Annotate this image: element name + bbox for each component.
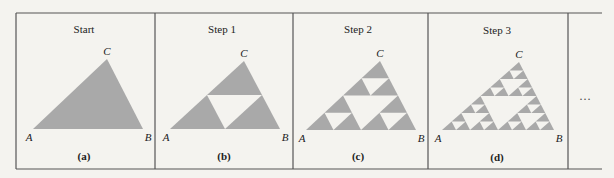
filled-triangle (527, 96, 541, 105)
sierpinski-triangle (442, 62, 554, 130)
filled-triangle (456, 122, 470, 131)
filled-triangle (325, 96, 353, 113)
filled-triangle (371, 78, 399, 95)
filled-triangle (471, 96, 485, 105)
filled-triangle (508, 113, 522, 122)
vertex-label-c: C (240, 47, 248, 59)
panel-b: Step 1ABC(b) (162, 23, 289, 163)
filled-triangle (461, 105, 475, 114)
filled-triangle (480, 113, 494, 122)
filled-triangle (306, 113, 334, 130)
vertex-label-c: C (103, 45, 111, 57)
filled-triangle (33, 59, 143, 129)
vertex-label-b: B (145, 131, 152, 143)
filled-triangle (500, 71, 514, 80)
filled-triangle (523, 88, 537, 97)
filled-triangle (531, 105, 545, 114)
vertex-label-b: B (282, 131, 289, 143)
filled-triangle (484, 122, 498, 131)
panel-caption: (a) (78, 150, 91, 163)
continuation-ellipsis: … (579, 89, 591, 103)
sierpinski-triangle (33, 59, 143, 129)
filled-triangle (362, 61, 390, 78)
vertex-label-a: A (162, 131, 170, 143)
panel-title: Step 2 (344, 23, 372, 35)
figure-canvas: StartABC(a)Step 1ABC(b)Step 2ABC(c)Step … (0, 0, 614, 178)
filled-triangle (343, 78, 371, 95)
filled-triangle (517, 105, 531, 114)
filled-triangle (509, 88, 523, 97)
panel-caption: (c) (352, 150, 365, 163)
panel-caption: (d) (490, 151, 504, 164)
filled-triangle (475, 105, 489, 114)
vertex-label-c: C (376, 47, 384, 59)
filled-triangle (512, 122, 526, 131)
filled-triangle (334, 113, 362, 130)
sierpinski-figure: StartABC(a)Step 1ABC(b)Step 2ABC(c)Step … (0, 0, 614, 178)
panel-title: Start (74, 23, 95, 35)
filled-triangle (481, 88, 495, 97)
filled-triangle (536, 113, 550, 122)
filled-triangle (514, 71, 528, 80)
filled-triangle (495, 88, 509, 97)
filled-triangle (518, 79, 532, 88)
vertex-label-c: C (515, 48, 523, 60)
filled-triangle (225, 95, 280, 129)
filled-triangle (498, 122, 512, 131)
filled-triangle (380, 96, 408, 113)
filled-triangle (470, 122, 484, 131)
panel-c: Step 2ABC(c) (298, 23, 425, 163)
vertex-label-b: B (556, 132, 563, 144)
filled-triangle (526, 122, 540, 131)
sierpinski-triangle (306, 61, 416, 130)
filled-triangle (442, 122, 456, 131)
panels: StartABC(a)Step 1ABC(b)Step 2ABC(c)Step … (25, 23, 563, 164)
panel-d: Step 3ABC(d) (434, 24, 563, 164)
filled-triangle (540, 122, 554, 131)
vertex-label-a: A (298, 132, 306, 144)
vertex-label-a: A (434, 132, 442, 144)
filled-triangle (490, 79, 504, 88)
filled-triangle (452, 113, 466, 122)
filled-triangle (509, 62, 523, 71)
panel-caption: (b) (217, 150, 231, 163)
panel-a: StartABC(a) (25, 23, 152, 163)
vertex-label-b: B (418, 132, 425, 144)
filled-triangle (207, 61, 262, 95)
sierpinski-triangle (170, 61, 280, 129)
filled-triangle (170, 95, 225, 129)
filled-triangle (361, 113, 389, 130)
panel-title: Step 3 (483, 24, 511, 36)
panel-title: Step 1 (208, 23, 236, 35)
filled-triangle (389, 113, 417, 130)
vertex-label-a: A (25, 131, 33, 143)
